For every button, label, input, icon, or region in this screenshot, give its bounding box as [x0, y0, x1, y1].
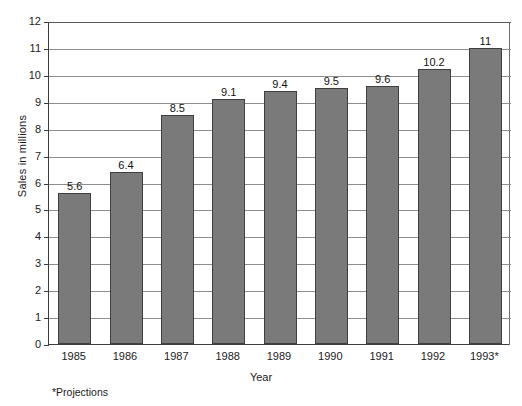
footnote-projections: *Projections — [52, 386, 108, 398]
bar-1986[interactable]: 6.4 — [110, 172, 143, 344]
bar-1988[interactable]: 9.1 — [212, 99, 245, 344]
y-tick-label: 8 — [19, 124, 41, 135]
y-tick-mark — [44, 49, 49, 50]
y-tick-mark — [44, 22, 49, 23]
bar-value-label: 9.1 — [221, 86, 236, 98]
bar-value-label: 9.4 — [272, 78, 287, 90]
bar-1985[interactable]: 5.6 — [58, 193, 91, 344]
y-tick-label: 6 — [19, 178, 41, 189]
bar-value-label: 11 — [480, 35, 491, 47]
y-tick-label: 9 — [19, 97, 41, 108]
y-tick-mark — [44, 157, 49, 158]
y-tick-label: 10 — [19, 70, 41, 81]
y-tick-label: 4 — [19, 231, 41, 242]
bar-value-label: 8.5 — [170, 102, 185, 114]
y-tick-label: 7 — [19, 151, 41, 162]
bar-chart-figure: Sales in millions 0123456789101112 5.66.… — [0, 0, 522, 406]
y-tick-mark — [44, 345, 49, 346]
y-tick-mark — [44, 184, 49, 185]
gridline — [49, 49, 511, 50]
bar-value-label: 6.4 — [118, 159, 133, 171]
y-tick-label: 0 — [19, 339, 41, 350]
bar-value-label: 10.2 — [423, 56, 444, 68]
bar-value-label: 9.5 — [324, 75, 339, 87]
y-tick-label: 5 — [19, 204, 41, 215]
bar-1989[interactable]: 9.4 — [264, 91, 297, 344]
gridline — [49, 22, 511, 23]
y-tick-label: 12 — [19, 16, 41, 27]
bar-1993[interactable]: 11 — [469, 48, 502, 344]
y-tick-mark — [44, 130, 49, 131]
y-tick-label: 1 — [19, 312, 41, 323]
y-tick-mark — [44, 318, 49, 319]
bar-1990[interactable]: 9.5 — [315, 88, 348, 344]
y-tick-mark — [44, 237, 49, 238]
plot-area: 0123456789101112 5.66.48.59.19.49.59.610… — [48, 22, 510, 345]
bar-value-label: 9.6 — [375, 73, 390, 85]
bar-1987[interactable]: 8.5 — [161, 115, 194, 344]
y-tick-mark — [44, 210, 49, 211]
y-tick-label: 2 — [19, 285, 41, 296]
y-tick-mark — [44, 291, 49, 292]
y-tick-mark — [44, 264, 49, 265]
y-tick-mark — [44, 103, 49, 104]
bar-value-label: 5.6 — [67, 180, 82, 192]
bar-1991[interactable]: 9.6 — [366, 86, 399, 344]
x-axis-title: Year — [0, 371, 522, 383]
y-tick-mark — [44, 76, 49, 77]
bar-1992[interactable]: 10.2 — [418, 69, 451, 344]
y-tick-label: 3 — [19, 258, 41, 269]
x-tick-label: 1993* — [454, 350, 514, 362]
y-tick-label: 11 — [19, 43, 41, 54]
